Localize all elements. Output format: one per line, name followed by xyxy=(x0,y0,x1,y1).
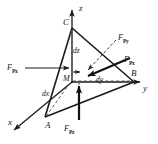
pressure-tetrahedron-figure: x y z A B C M dz dy dx FPx FPy FPx FPz xyxy=(0,0,158,144)
force-label-fpx-right: FPx xyxy=(124,56,135,66)
vertex-label-b: B xyxy=(131,69,137,78)
force-subscript: Px xyxy=(12,68,18,74)
differential-label-dy: dy xyxy=(96,76,103,84)
differential-label-dz: dz xyxy=(73,47,80,55)
vertex-label-a: A xyxy=(45,121,51,130)
axis-label-y: y xyxy=(143,84,147,93)
force-subscript: Px xyxy=(129,60,135,66)
force-subscript: Pz xyxy=(69,129,74,135)
point-label-m: M xyxy=(63,75,70,83)
force-label-fpz: FPz xyxy=(64,125,74,135)
axis-label-x: x xyxy=(8,118,12,127)
force-label-fpx-left: FPx xyxy=(7,64,18,74)
force-subscript: Py xyxy=(123,38,129,44)
vertex-label-c: C xyxy=(63,18,69,27)
force-label-fpy: FPy xyxy=(118,34,129,44)
axis-label-z: z xyxy=(79,4,83,13)
point-m-marker xyxy=(71,81,73,83)
differential-label-dx: dx xyxy=(42,90,49,98)
